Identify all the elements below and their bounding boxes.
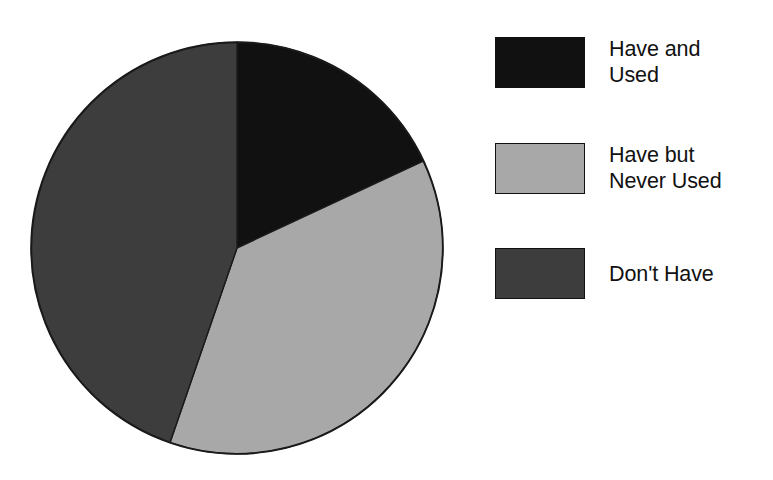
legend-swatch-have-and-used (495, 37, 585, 88)
legend-label-have-and-used: Have and Used (609, 36, 700, 88)
legend-item-dont-have[interactable]: Don't Have (495, 248, 714, 299)
legend-label-dont-have: Don't Have (609, 261, 714, 287)
pie-chart-figure: Have and Used Have but Never Used Don't … (0, 0, 773, 480)
legend: Have and Used Have but Never Used Don't … (495, 30, 773, 320)
legend-swatch-dont-have (495, 248, 585, 299)
legend-swatch-have-but-never-used (495, 143, 585, 194)
legend-item-have-and-used[interactable]: Have and Used (495, 36, 700, 88)
legend-label-have-but-never-used: Have but Never Used (609, 142, 722, 194)
pie-slices (32, 43, 443, 454)
pie-chart-svg (30, 41, 444, 455)
pie-chart-plot-area (30, 41, 444, 455)
legend-item-have-but-never-used[interactable]: Have but Never Used (495, 142, 722, 194)
